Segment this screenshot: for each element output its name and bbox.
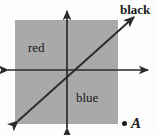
square-region-above-diagonal	[0, 0, 138, 20]
square-region-above-diagonal-upper	[0, 0, 138, 20]
diagonal-label-black: black	[120, 3, 150, 16]
bullet-dot-icon	[122, 121, 127, 126]
bullet-item-text: A	[131, 116, 141, 131]
geometry-figure: red blue black A	[0, 0, 156, 135]
list-item: A	[122, 116, 141, 131]
region-label-blue: blue	[76, 91, 98, 104]
region-label-red: red	[28, 41, 45, 54]
